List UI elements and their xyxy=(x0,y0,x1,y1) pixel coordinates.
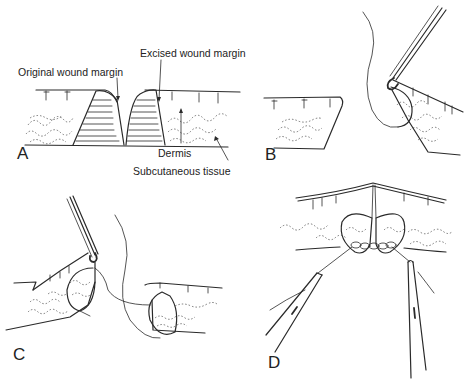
panel-a-drawing xyxy=(25,60,240,160)
panel-d-drawing xyxy=(266,183,452,378)
panel-b-drawing xyxy=(264,6,463,155)
panel-c-drawing xyxy=(6,196,222,338)
illustration xyxy=(0,0,471,382)
